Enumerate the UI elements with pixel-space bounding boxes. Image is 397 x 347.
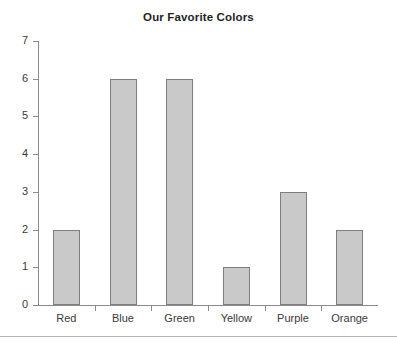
x-tick-mark	[321, 306, 322, 311]
y-tick-mark	[33, 267, 38, 268]
bar	[166, 79, 193, 305]
y-tick-label: 5	[0, 110, 28, 121]
x-tick-mark	[95, 306, 96, 311]
y-tick-mark	[33, 79, 38, 80]
y-tick-label: 6	[0, 73, 28, 84]
x-tick-mark	[151, 306, 152, 311]
x-tick-label: Blue	[95, 312, 152, 325]
y-tick-mark	[33, 230, 38, 231]
y-tick-mark	[33, 116, 38, 117]
bar	[280, 192, 307, 305]
x-tick-label: Orange	[321, 312, 378, 325]
x-tick-label: Yellow	[208, 312, 265, 325]
bar	[223, 267, 250, 305]
y-tick-label: 7	[0, 35, 28, 46]
y-tick-label: 4	[0, 148, 28, 159]
chart-title: Our Favorite Colors	[0, 11, 397, 23]
bar	[53, 230, 80, 305]
bar	[336, 230, 363, 305]
y-axis-line	[38, 41, 39, 306]
y-tick-mark	[33, 154, 38, 155]
x-tick-label: Green	[151, 312, 208, 325]
x-tick-mark	[208, 306, 209, 311]
y-tick-label: 2	[0, 224, 28, 235]
y-tick-label: 1	[0, 261, 28, 272]
x-tick-label: Red	[38, 312, 95, 325]
x-tick-mark	[265, 306, 266, 311]
y-tick-mark	[33, 41, 38, 42]
bar	[110, 79, 137, 305]
bottom-divider	[0, 336, 397, 337]
y-tick-mark	[33, 192, 38, 193]
x-tick-label: Purple	[265, 312, 322, 325]
y-tick-label: 0	[0, 299, 28, 310]
y-tick-label: 3	[0, 186, 28, 197]
bar-chart-figure: Our Favorite Colors 01234567 RedBlueGree…	[0, 0, 397, 347]
y-tick-mark	[33, 305, 38, 306]
